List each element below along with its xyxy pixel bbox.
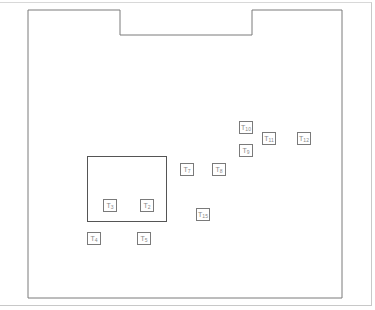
terminal-t10: T10	[239, 121, 253, 134]
terminal-subscript: 11	[269, 137, 274, 143]
terminal-subscript: 3	[111, 204, 114, 210]
terminal-t2: T2	[140, 199, 154, 212]
terminal-t9: T9	[239, 144, 253, 157]
terminal-subscript: 15	[202, 213, 208, 219]
terminal-t12: T12	[297, 132, 311, 145]
terminal-subscript: 5	[145, 237, 148, 243]
terminal-t5: T5	[137, 232, 151, 245]
terminal-subscript: 10	[245, 126, 251, 132]
terminal-subscript: 4	[95, 237, 98, 243]
terminal-subscript: 7	[188, 168, 191, 174]
board-outline-polygon	[28, 10, 342, 298]
terminal-t3: T3	[103, 199, 117, 212]
terminal-t7: T7	[180, 163, 194, 176]
terminal-subscript: 8	[220, 168, 223, 174]
terminal-t11: T11	[262, 132, 276, 145]
terminal-subscript: 9	[247, 149, 250, 155]
board-outline	[0, 0, 375, 310]
terminal-t15: T15	[196, 208, 210, 221]
terminal-t8: T8	[212, 163, 226, 176]
terminal-subscript: 2	[148, 204, 151, 210]
terminal-subscript: 12	[303, 137, 309, 143]
terminal-t4: T4	[87, 232, 101, 245]
component-region	[88, 157, 167, 222]
